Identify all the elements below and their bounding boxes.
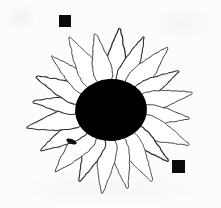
reference-square-bottom-right <box>172 160 185 173</box>
reference-square-top-left <box>59 15 71 27</box>
daisy-figure <box>0 0 221 208</box>
image-canvas <box>0 0 221 208</box>
